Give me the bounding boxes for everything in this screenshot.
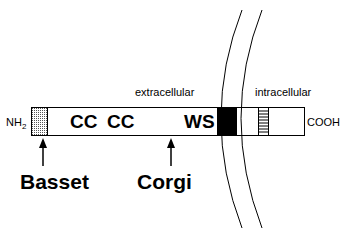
n-terminus-subscript: 2 — [22, 122, 26, 131]
ws-motif-label: WS — [184, 112, 215, 131]
signal-peptide-box — [32, 108, 48, 136]
intracellular-label: intracellular — [255, 87, 311, 98]
corgi-arrow-icon — [167, 138, 175, 166]
extracellular-label: extracellular — [135, 87, 194, 98]
c-terminus-label: COOH — [307, 117, 340, 128]
basset-arrow-icon — [39, 138, 47, 166]
diagram-graphics — [0, 0, 347, 237]
receptor-diagram: extracellular intracellular NH2 COOH CC … — [0, 0, 347, 237]
cc-domain-2-label: CC — [107, 112, 134, 131]
basset-mutation-label: Basset — [20, 171, 89, 192]
cc-domain-1-label: CC — [70, 112, 97, 131]
box1-motif — [259, 108, 269, 136]
n-terminus-label: NH2 — [6, 117, 26, 131]
transmembrane-box — [217, 108, 237, 136]
n-terminus-text: NH — [6, 116, 22, 128]
corgi-mutation-label: Corgi — [137, 171, 192, 192]
